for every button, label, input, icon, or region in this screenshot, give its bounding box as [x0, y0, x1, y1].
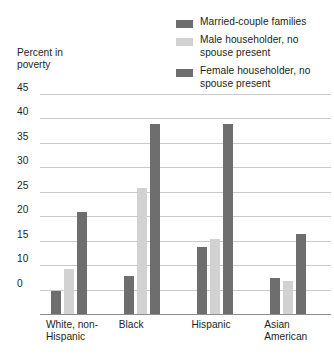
y-axis-tick-label: 45: [17, 83, 28, 93]
x-axis-baseline: [40, 314, 331, 315]
y-axis-tick-label: 0: [17, 279, 23, 289]
x-axis-category-label: Black: [119, 319, 202, 331]
y-axis-tick-label: 40: [17, 107, 28, 117]
legend-swatch-icon: [176, 69, 193, 77]
category-label-line: Hispanic: [46, 331, 129, 343]
legend-swatch-icon: [176, 20, 193, 28]
legend-item-label: Male householder, no spouse present: [200, 34, 334, 59]
bar-group: [40, 95, 113, 315]
category-label-line: Hispanic: [192, 319, 275, 331]
y-axis-tick-label: 25: [17, 181, 28, 191]
y-axis-tick-label: 20: [17, 205, 28, 215]
bar: [197, 247, 207, 315]
y-axis-tick-label: 10: [17, 254, 28, 264]
legend-item: Male householder, no spouse present: [176, 34, 334, 59]
bar: [77, 212, 87, 315]
legend-item-label: Female householder, no spouse present: [200, 65, 334, 90]
y-axis-tick-labels: 45403530252015100: [17, 95, 41, 315]
bar: [223, 124, 233, 315]
bar: [51, 291, 61, 315]
category-label-line: White, non-: [46, 319, 129, 331]
y-axis-tick-label: 15: [17, 230, 28, 240]
category-label-line: Black: [119, 319, 202, 331]
bar: [210, 239, 220, 315]
legend-item-label: Married-couple families: [200, 16, 306, 28]
bar-group: [113, 95, 186, 315]
poverty-rate-bar-chart: Married-couple families Male householder…: [0, 0, 334, 358]
y-axis-title: Percent in poverty: [17, 47, 97, 72]
bar: [283, 281, 293, 315]
bar: [150, 124, 160, 315]
y-axis-tick-label: 30: [17, 156, 28, 166]
legend-item: Married-couple families: [176, 16, 334, 28]
y-axis-tick-label: 35: [17, 132, 28, 142]
bar: [64, 269, 74, 315]
x-axis-category-label: Hispanic: [192, 319, 275, 331]
legend-item: Female householder, no spouse present: [176, 65, 334, 90]
category-label-line: Asian: [264, 319, 334, 331]
x-axis-category-label: White, non-Hispanic: [46, 319, 129, 344]
bar: [124, 276, 134, 315]
bar-group: [186, 95, 259, 315]
x-axis-category-labels: White, non-HispanicBlackHispanicAsianAme…: [40, 319, 331, 355]
legend-swatch-icon: [176, 38, 193, 46]
bar: [296, 234, 306, 315]
x-axis-category-label: AsianAmerican: [264, 319, 334, 344]
bar: [137, 188, 147, 315]
chart-legend: Married-couple families Male householder…: [176, 16, 334, 96]
bar-groups: [40, 95, 331, 315]
plot-area: [40, 95, 331, 315]
category-label-line: American: [264, 331, 334, 343]
bar: [270, 278, 280, 315]
bar-group: [258, 95, 331, 315]
